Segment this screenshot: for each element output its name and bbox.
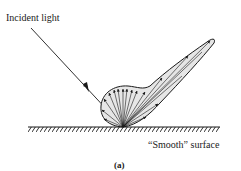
figure-caption: (a) xyxy=(114,160,125,170)
smooth-surface xyxy=(28,127,220,132)
surface-label: “Smooth” surface xyxy=(148,139,220,150)
reflection-diagram: Incident light “Smooth” surface xyxy=(0,0,241,171)
incident-light-label: Incident light xyxy=(6,12,60,23)
